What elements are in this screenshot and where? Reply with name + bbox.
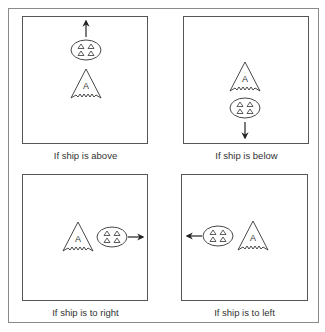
panel-right-graphics: A bbox=[63, 222, 143, 251]
enemy-formation-icon bbox=[203, 226, 233, 246]
enemy-formation-icon bbox=[71, 40, 101, 60]
ship-label: A bbox=[250, 233, 256, 243]
ship-label: A bbox=[242, 74, 248, 84]
panel-above-graphics: A bbox=[71, 21, 101, 98]
enemy-formation-icon bbox=[230, 98, 260, 118]
ship-label: A bbox=[75, 234, 81, 244]
diagram-artwork: A A A A bbox=[0, 0, 325, 332]
panel-below-graphics: A bbox=[230, 62, 260, 138]
panel-left-graphics: A bbox=[187, 221, 268, 250]
ship-label: A bbox=[83, 81, 89, 91]
enemy-formation-icon bbox=[97, 227, 127, 247]
